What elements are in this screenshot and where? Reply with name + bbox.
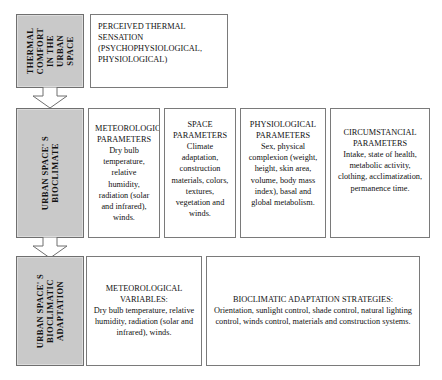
bioclimatic-adaptation-strategies-body: Orientation, sunlight control, shade con… [213, 305, 413, 327]
bioclimatic-adaptation-strategies-box: BIOCLIMATIC ADAPTATION STRATEGIES: Orien… [206, 256, 420, 366]
meteorological-parameters-heading: METEOROLOGICAL PARAMETERS [95, 123, 153, 145]
meteorological-variables-box: METEOROLOGICAL VARIABLES: Dry bulb tempe… [86, 256, 202, 366]
row-3-category-label: URBAN SPACE' S BIOCLIMATIC ADAPTATION [35, 274, 65, 348]
row-1-label-line-1: THERMAL [25, 28, 35, 75]
bioclimatic-adaptation-strategies-heading: BIOCLIMATIC ADAPTATION STRATEGIES: [213, 294, 413, 305]
circumstancial-parameters-content: CIRCUMSTANCIAL PARAMETERS Intake, state … [331, 127, 429, 194]
bioclimatic-framework-diagram: THERMAL COMFORT IN THE URBAN SPACE PERCE… [0, 0, 442, 380]
row-2-category-label: URBAN SPACE' S BIOCLIMATE [40, 136, 60, 210]
space-parameters-content: SPACE PARAMETERS Climate adaptation, con… [165, 119, 235, 219]
row-1-label-line-5: SPACE [65, 28, 75, 75]
row-2-category-label-box: URBAN SPACE' S BIOCLIMATE [16, 108, 84, 238]
row-1-label-line-4: URBAN [55, 28, 65, 75]
meteorological-variables-content: METEOROLOGICAL VARIABLES: Dry bulb tempe… [87, 283, 201, 339]
perceived-thermal-sensation-box: PERCEIVED THERMAL SENSATION (PSYCHOPHYSI… [90, 14, 228, 88]
meteorological-parameters-content: METEOROLOGICAL PARAMETERS Dry bulb tempe… [89, 123, 159, 223]
row-3-label-line-3: ADAPTATION [55, 274, 65, 348]
row-3-label-line-1: URBAN SPACE' S [35, 274, 45, 348]
meteorological-parameters-box: METEOROLOGICAL PARAMETERS Dry bulb tempe… [88, 108, 160, 238]
down-block-arrow-icon [30, 87, 70, 109]
row-2-label-line-2: BIOCLIMATE [50, 136, 60, 210]
meteorological-variables-heading: METEOROLOGICAL VARIABLES: [93, 283, 195, 305]
perceived-thermal-sensation-content: PERCEIVED THERMAL SENSATION (PSYCHOPHYSI… [91, 21, 227, 65]
circumstancial-parameters-body: Intake, state of health, metabolic activ… [337, 149, 423, 193]
space-parameters-heading: SPACE PARAMETERS [171, 119, 229, 141]
physiological-parameters-box: PHYSIOLOGICAL PARAMETERS Sex, physical c… [240, 108, 326, 238]
physiological-parameters-content: PHYSIOLOGICAL PARAMETERS Sex, physical c… [241, 119, 325, 208]
circumstancial-parameters-box: CIRCUMSTANCIAL PARAMETERS Intake, state … [330, 108, 430, 238]
perceived-thermal-sensation-heading: PERCEIVED THERMAL SENSATION [98, 21, 220, 43]
row-1-label-line-3: IN THE [45, 28, 55, 75]
row-3-category-label-box: URBAN SPACE' S BIOCLIMATIC ADAPTATION [16, 256, 84, 366]
physiological-parameters-heading: PHYSIOLOGICAL PARAMETERS [247, 119, 319, 141]
bioclimatic-adaptation-strategies-content: BIOCLIMATIC ADAPTATION STRATEGIES: Orien… [207, 294, 419, 327]
meteorological-parameters-body: Dry bulb temperature, relative humidity,… [95, 145, 153, 223]
row-2-label-line-1: URBAN SPACE' S [40, 136, 50, 210]
space-parameters-box: SPACE PARAMETERS Climate adaptation, con… [164, 108, 236, 238]
perceived-thermal-sensation-body: (PSYCHOPHYSIOLOGICAL, PHYSIOLOGICAL) [98, 43, 220, 65]
row-1-label-line-2: COMFORT [35, 28, 45, 75]
row-3-label-line-2: BIOCLIMATIC [45, 274, 55, 348]
row-1-category-label-box: THERMAL COMFORT IN THE URBAN SPACE [16, 14, 84, 88]
row-1-category-label: THERMAL COMFORT IN THE URBAN SPACE [25, 28, 75, 75]
arrow-row1-to-row2 [30, 87, 70, 109]
circumstancial-parameters-heading: CIRCUMSTANCIAL PARAMETERS [337, 127, 423, 149]
meteorological-variables-body: Dry bulb temperature, relative humidity,… [93, 305, 195, 338]
physiological-parameters-body: Sex, physical complexion (weight, height… [247, 141, 319, 208]
space-parameters-body: Climate adaptation, construction materia… [171, 141, 229, 219]
